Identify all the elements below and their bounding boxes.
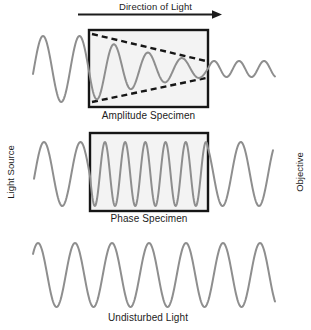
undisturbed-wave bbox=[33, 243, 275, 307]
direction-of-light-label: Direction of Light bbox=[0, 1, 311, 12]
undisturbed-light-caption: Undisturbed Light bbox=[0, 312, 296, 323]
microscopy-light-diagram: Direction of Light Amplitude Specimen Ph… bbox=[0, 0, 311, 330]
diagram-canvas bbox=[0, 0, 311, 330]
phase-specimen-caption: Phase Specimen bbox=[90, 213, 208, 224]
light-source-label: Light Source bbox=[5, 145, 16, 198]
amplitude-specimen-caption: Amplitude Specimen bbox=[89, 110, 208, 121]
objective-label: Objective bbox=[294, 152, 305, 192]
